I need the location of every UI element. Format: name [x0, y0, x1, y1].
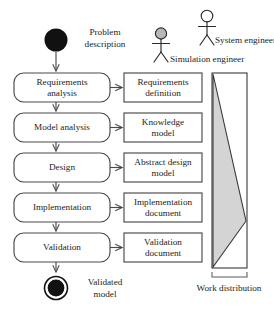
diagram-svg: Problem description Simulation engineer …	[0, 0, 274, 318]
activity-requirements-analysis-line1: Requirements	[36, 77, 87, 87]
work-distribution-diagram	[212, 73, 247, 277]
final-node-label-line2: model	[94, 289, 117, 299]
activity-validation-line1: Validation	[43, 242, 81, 252]
activity-diagram-canvas: Problem description Simulation engineer …	[0, 0, 274, 318]
artifact-validation-document-line1: Validation	[144, 237, 182, 247]
artifact-knowledge-model-line2: model	[152, 128, 175, 138]
actor-simulation-engineer	[153, 28, 170, 62]
work-distribution-label: Work distribution	[197, 283, 262, 293]
artifact-implementation-document-line2: document	[145, 208, 182, 218]
activity-implementation-line1: Implementation	[33, 202, 92, 212]
artifact-knowledge-model-line1: Knowledge	[142, 117, 184, 127]
artifact-implementation-document-line1: Implementation	[134, 197, 193, 207]
initial-node-label-line1: Problem	[89, 27, 120, 37]
initial-node-label-line2: description	[85, 39, 126, 49]
work-distribution-bracket	[212, 272, 247, 277]
initial-node	[45, 29, 68, 52]
actor-system-engineer-label: System engineer	[215, 35, 274, 45]
artifact-abstract-design-model-line1: Abstract design	[134, 157, 192, 167]
artifact-requirements-definition-line1: Requirements	[137, 77, 188, 87]
artifact-validation-document-line2: document	[145, 248, 182, 258]
activity-requirements-analysis-line2: analysis	[47, 88, 77, 98]
actor-simulation-engineer-label: Simulation engineer	[170, 54, 244, 64]
actor-system-engineer	[199, 10, 216, 45]
final-node	[45, 277, 68, 300]
activity-design-line1: Design	[49, 162, 75, 172]
final-node-label-line1: Validated	[88, 277, 123, 287]
artifact-abstract-design-model-line2: model	[152, 168, 175, 178]
artifact-requirements-definition-line2: definition	[145, 88, 181, 98]
activity-model-analysis-line1: Model analysis	[34, 122, 90, 132]
